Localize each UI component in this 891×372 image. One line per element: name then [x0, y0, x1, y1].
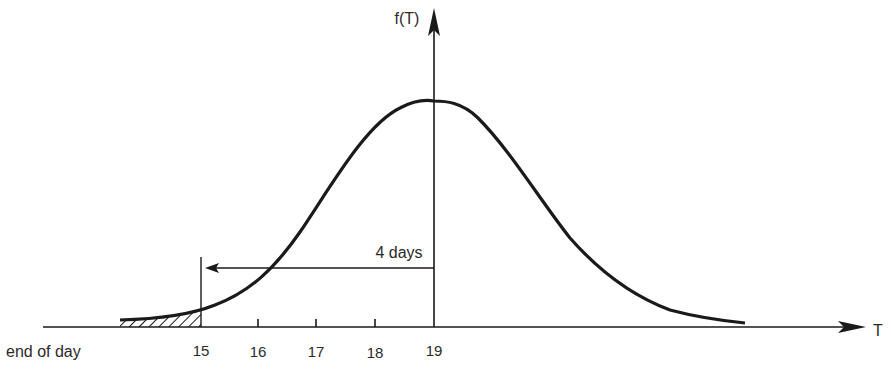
tick-label-18: 18 [367, 344, 384, 361]
x-axis-label: T [873, 322, 883, 339]
y-axis-label: f(T) [395, 10, 420, 27]
distribution-diagram: 4 days f(T) T end of day 15 16 17 18 19 [0, 0, 891, 372]
tick-label-17: 17 [308, 343, 325, 360]
tick-label-15: 15 [193, 342, 210, 359]
density-curve [120, 101, 745, 323]
arrow-label: 4 days [375, 244, 422, 261]
x-axis-ticks [258, 319, 375, 327]
x-left-label: end of day [6, 343, 81, 360]
tick-label-19: 19 [426, 342, 443, 359]
tick-label-16: 16 [250, 343, 267, 360]
